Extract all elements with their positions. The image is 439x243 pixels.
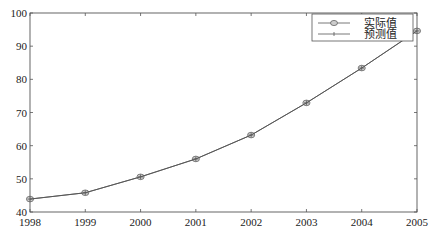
x-tick-label: 2005: [406, 216, 429, 228]
y-tick-label: 80: [16, 73, 28, 85]
x-tick-label: 2003: [295, 216, 318, 228]
legend: 实际值 预测值: [312, 14, 413, 41]
x-tick-label: 2000: [130, 216, 153, 228]
y-tick-label: 60: [16, 140, 28, 152]
legend-box: [312, 14, 413, 41]
x-tick-label: 1999: [74, 216, 97, 228]
plot-frame: [30, 13, 417, 212]
plot-series: [26, 28, 420, 202]
y-tick-label: 70: [16, 107, 28, 119]
y-tick-label: 100: [11, 7, 28, 19]
x-tick-label: 2002: [240, 216, 262, 228]
legend-predicted-label: 预测值: [364, 28, 397, 41]
series-line-1: [30, 31, 417, 199]
line-chart: 4050607080901001998199920002001200220032…: [0, 0, 439, 243]
x-tick-label: 2004: [351, 216, 374, 228]
legend-circle-marker-icon: [331, 20, 338, 25]
y-tick-label: 50: [16, 173, 28, 185]
x-tick-label: 1998: [19, 216, 42, 228]
y-tick-label: 90: [16, 40, 28, 52]
x-tick-label: 2001: [185, 216, 207, 228]
series-line-0: [30, 31, 417, 199]
